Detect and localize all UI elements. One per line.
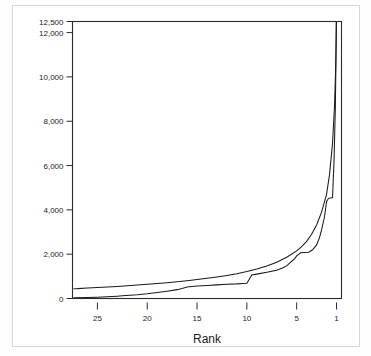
x-tick-label: 20 xyxy=(143,314,152,323)
x-tick-label: 1 xyxy=(334,314,339,323)
series-group xyxy=(74,6,337,298)
y-tick-label: 2,000 xyxy=(43,250,64,259)
series-line-smooth-curve xyxy=(74,6,337,289)
x-tick-label: 15 xyxy=(193,314,202,323)
y-tick-label: 12,500 xyxy=(39,18,64,27)
y-tick-label: 10,000 xyxy=(39,73,64,82)
plot-frame xyxy=(73,22,342,299)
x-tick-label: 10 xyxy=(242,314,251,323)
y-tick-label: 6,000 xyxy=(43,162,64,171)
y-tick-label: 4,000 xyxy=(43,206,64,215)
x-tick-label: 5 xyxy=(294,314,299,323)
y-tick-label: 8,000 xyxy=(43,117,64,126)
rank-chart: 02,0004,0006,0008,00010,00012,00012,5002… xyxy=(0,0,371,356)
x-axis: 2520151051 xyxy=(93,303,339,323)
x-tick-label: 25 xyxy=(93,314,102,323)
y-tick-label: 0 xyxy=(59,295,64,304)
series-line-stepped-curve xyxy=(74,6,337,298)
y-axis: 02,0004,0006,0008,00010,00012,00012,500 xyxy=(39,18,72,304)
x-axis-title: Rank xyxy=(193,332,222,346)
y-tick-label: 12,000 xyxy=(39,29,64,38)
chart-figure: 02,0004,0006,0008,00010,00012,00012,5002… xyxy=(0,0,371,356)
